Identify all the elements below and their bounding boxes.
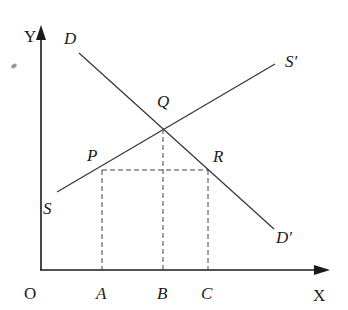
supply-curve xyxy=(57,64,275,192)
point-p-label: P xyxy=(86,146,97,165)
supply-start-label: S xyxy=(43,199,52,218)
stray-mark xyxy=(10,63,17,69)
demand-start-label: D xyxy=(63,29,77,48)
tick-label-b: B xyxy=(157,284,168,303)
supply-end-label: S′ xyxy=(285,52,298,71)
point-r-label: R xyxy=(212,147,224,166)
tick-label-c: C xyxy=(201,284,213,303)
demand-end-label: D′ xyxy=(275,228,292,247)
supply-demand-diagram: Y X O A B C D D′ S S′ Q P R xyxy=(0,0,348,310)
y-axis-arrow-icon xyxy=(36,25,46,40)
origin-label: O xyxy=(24,284,36,303)
tick-label-a: A xyxy=(95,284,107,303)
demand-curve xyxy=(79,53,274,229)
y-axis-label: Y xyxy=(24,27,36,46)
x-axis-arrow-icon xyxy=(314,265,330,275)
x-axis-label: X xyxy=(313,286,325,305)
point-q-label: Q xyxy=(157,92,169,111)
